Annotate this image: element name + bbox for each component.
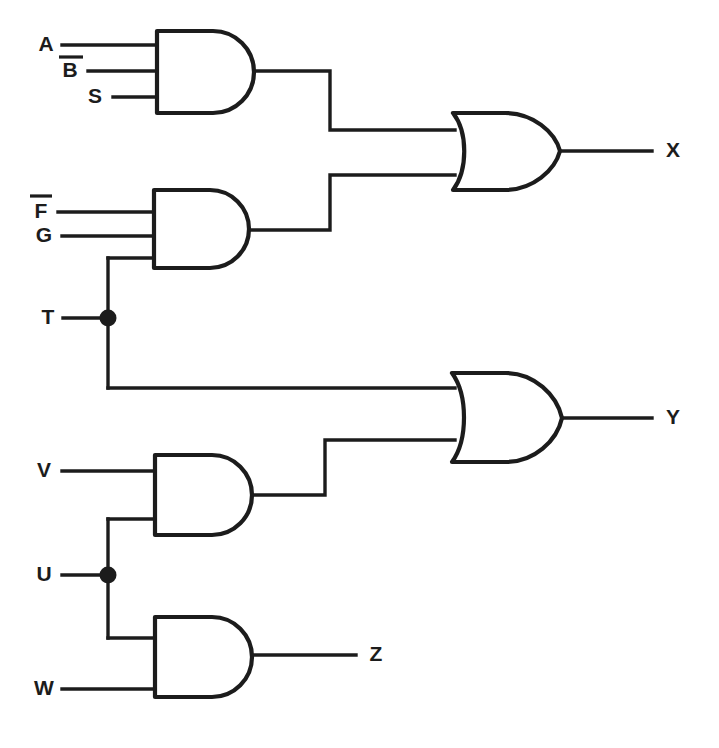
- and-gate-3-body: [155, 455, 252, 535]
- output-label-x: X: [666, 138, 680, 161]
- input-label-a: A: [38, 32, 53, 55]
- wire-and2-to-orx: [251, 175, 455, 230]
- logic-circuit-diagram: A B S F G T V U W X Y Z: [0, 0, 719, 748]
- or-gate-y-body: [452, 373, 562, 462]
- input-label-u: U: [36, 562, 51, 585]
- input-label-f: F: [35, 199, 48, 222]
- input-label-b: B: [62, 58, 77, 81]
- junction-dot-t: [100, 310, 117, 327]
- wire-and3-to-ory: [253, 440, 455, 495]
- circuit-canvas: A B S F G T V U W X Y Z: [0, 0, 719, 748]
- input-label-t: T: [42, 305, 55, 328]
- or-gate-x-body: [453, 113, 560, 190]
- wire-and1-to-orx: [254, 71, 455, 130]
- input-label-s: S: [88, 84, 102, 107]
- and-gate-4-body: [155, 617, 252, 697]
- and-gate-1-body: [157, 31, 254, 113]
- input-label-g: G: [36, 223, 52, 246]
- and-gate-2-body: [154, 190, 249, 268]
- output-label-y: Y: [666, 405, 680, 428]
- junction-dot-u: [100, 567, 117, 584]
- input-label-w: W: [34, 676, 54, 699]
- input-label-v: V: [37, 458, 51, 481]
- output-label-z: Z: [370, 642, 383, 665]
